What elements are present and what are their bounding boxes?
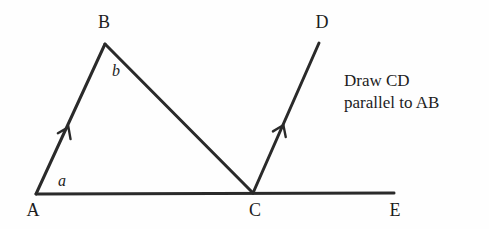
geometry-figure: ABCDEab Draw CD parallel to AB [0, 0, 489, 229]
segment-ab [36, 44, 105, 194]
vertex-label-c: C [249, 201, 261, 219]
diagram-canvas [0, 0, 489, 229]
vertex-label-d: D [316, 13, 329, 31]
arrow-marker-group [58, 122, 290, 139]
segment-ae [36, 193, 394, 194]
angle-label-a: a [58, 173, 66, 189]
vertex-label-b: B [98, 13, 110, 31]
segment-group [36, 43, 394, 194]
segment-bc [105, 44, 253, 193]
angle-label-b: b [112, 63, 120, 79]
instruction-line-2: parallel to AB [344, 92, 439, 114]
segment-cd [253, 43, 319, 193]
instruction-line-1: Draw CD [344, 70, 439, 92]
instruction-text: Draw CD parallel to AB [344, 70, 439, 114]
vertex-label-e: E [390, 201, 401, 219]
vertex-label-a: A [27, 201, 40, 219]
